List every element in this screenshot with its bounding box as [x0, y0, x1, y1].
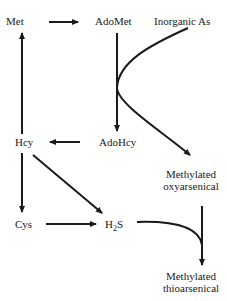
- node-methylated-thioarsenical: Methylated thioarsenical: [156, 270, 226, 294]
- node-adohcy-label: AdoHcy: [99, 136, 136, 148]
- node-hcy: Hcy: [15, 136, 33, 148]
- node-met: Met: [6, 15, 24, 27]
- thioarsenical-line1: Methylated: [156, 270, 226, 282]
- node-hcy-label: Hcy: [15, 136, 33, 148]
- oxyarsenical-line2: oxyarsenical: [158, 180, 224, 192]
- node-adomet: AdoMet: [95, 15, 132, 27]
- node-cys: Cys: [15, 218, 32, 230]
- node-methylated-oxyarsenical: Methylated oxyarsenical: [158, 168, 224, 192]
- pathway-edges: [0, 0, 227, 301]
- node-h2s-tail: S: [117, 218, 123, 230]
- node-h2s: H2S: [105, 218, 123, 230]
- node-cys-label: Cys: [15, 218, 32, 230]
- node-met-label: Met: [6, 15, 24, 27]
- oxyarsenical-line1: Methylated: [158, 168, 224, 180]
- node-adomet-label: AdoMet: [95, 15, 132, 27]
- arrow-hcy-to-h2s: [33, 155, 102, 213]
- node-adohcy: AdoHcy: [99, 136, 136, 148]
- node-inorganic-as-label: Inorganic As: [154, 15, 210, 27]
- node-h2s-base: H: [105, 218, 113, 230]
- thioarsenical-line2: thioarsenical: [156, 282, 226, 294]
- arrow-h2s-merge: [137, 222, 202, 245]
- node-inorganic-as: Inorganic As: [154, 15, 210, 27]
